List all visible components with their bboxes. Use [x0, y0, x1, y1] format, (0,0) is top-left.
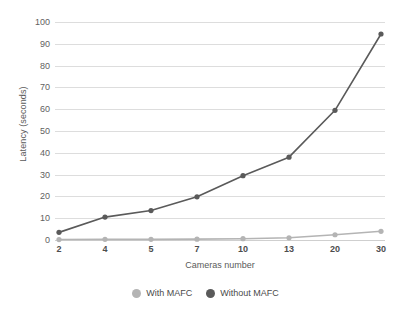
- x-tick-label: 30: [366, 243, 396, 255]
- data-point: [286, 155, 291, 160]
- series-layer: [55, 22, 385, 240]
- data-point: [378, 229, 383, 234]
- legend-marker-icon: [132, 289, 141, 298]
- x-tick-label: 13: [274, 243, 304, 255]
- data-point: [56, 230, 61, 235]
- data-point: [148, 208, 153, 213]
- data-point: [148, 237, 153, 242]
- plot-area: [55, 22, 385, 240]
- data-point: [102, 215, 107, 220]
- x-tick-label: 5: [136, 243, 166, 255]
- y-axis-tick-labels: 0102030405060708090100: [22, 22, 50, 240]
- data-point: [378, 31, 383, 36]
- x-tick-label: 4: [90, 243, 120, 255]
- legend-marker-icon: [206, 289, 215, 298]
- chart-legend: With MAFCWithout MAFC: [0, 288, 411, 298]
- data-point: [240, 236, 245, 241]
- data-point: [194, 194, 199, 199]
- x-tick-label: 2: [44, 243, 74, 255]
- data-point: [102, 237, 107, 242]
- data-point: [332, 232, 337, 237]
- data-point: [56, 237, 61, 242]
- data-point: [194, 237, 199, 242]
- data-point: [240, 173, 245, 178]
- x-tick-label: 7: [182, 243, 212, 255]
- y-tick-label: 40: [24, 149, 50, 158]
- y-tick-label: 60: [24, 105, 50, 114]
- legend-label: With MAFC: [146, 288, 192, 298]
- x-tick-label: 20: [320, 243, 350, 255]
- legend-item[interactable]: With MAFC: [132, 288, 192, 298]
- y-tick-label: 30: [24, 171, 50, 180]
- legend-label: Without MAFC: [220, 288, 279, 298]
- series-line: [59, 34, 381, 232]
- data-point: [332, 108, 337, 113]
- data-point: [286, 235, 291, 240]
- y-tick-label: 20: [24, 192, 50, 201]
- x-axis-title: Cameras number: [55, 259, 385, 271]
- x-tick-label: 10: [228, 243, 258, 255]
- y-tick-label: 90: [24, 40, 50, 49]
- y-tick-label: 100: [24, 18, 50, 27]
- legend-item[interactable]: Without MAFC: [206, 288, 279, 298]
- y-tick-label: 10: [24, 214, 50, 223]
- latency-line-chart: Latency (seconds) 0102030405060708090100…: [0, 0, 411, 317]
- y-tick-label: 80: [24, 62, 50, 71]
- x-axis-tick-labels: 245710132030: [55, 243, 385, 257]
- y-tick-label: 50: [24, 127, 50, 136]
- y-tick-label: 70: [24, 83, 50, 92]
